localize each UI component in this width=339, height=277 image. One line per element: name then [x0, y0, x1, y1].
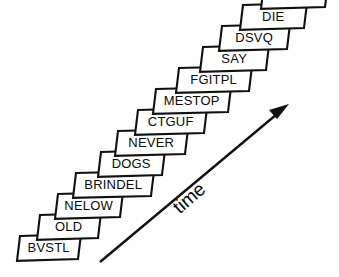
step-box-label: FGITPL — [190, 72, 237, 87]
figure-canvas: time BVSTLOLDNELOWBRINDELDOGSNEVERCTGUFM… — [0, 0, 339, 277]
step-box-label: BVSTL — [28, 240, 70, 255]
step-box-label: NELOW — [64, 198, 113, 213]
step-box-label: SAY — [221, 51, 247, 66]
step-box-label: DSVQ — [235, 30, 273, 45]
step-box-label: DOGS — [112, 156, 151, 171]
step-box-label: CTGUF — [148, 114, 194, 129]
step-box-label: BRINDEL — [84, 177, 142, 192]
step-box-label: MESTOP — [164, 93, 220, 108]
step-box-label: ZBOT — [276, 0, 311, 3]
step-box-label: DIE — [262, 9, 284, 24]
staircase-diagram: time BVSTLOLDNELOWBRINDELDOGSNEVERCTGUFM… — [0, 0, 339, 277]
step-box-label: OLD — [55, 219, 82, 234]
step-box: ZBOT — [261, 0, 328, 9]
step-box-label: NEVER — [128, 135, 174, 150]
